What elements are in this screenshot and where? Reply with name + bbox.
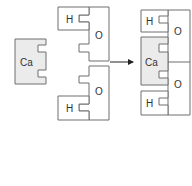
hydrogen-label: H (66, 103, 73, 114)
oxygen-label: O (95, 30, 103, 41)
calcium-label: Ca (145, 57, 158, 68)
calcium-piece-left: Ca (15, 39, 46, 84)
diagram-canvas: Ca H O O H H O Ca O H (0, 0, 192, 186)
oxygen-label: O (174, 26, 182, 37)
oxygen-label: O (174, 79, 182, 90)
hydrogen-label: H (66, 14, 73, 25)
oxygen-label: O (95, 86, 103, 97)
hydrogen-label: H (146, 98, 153, 109)
water-pair-bottom: O H (58, 66, 109, 120)
hydrogen-label: H (146, 16, 153, 27)
water-pair-top: H O (58, 7, 109, 61)
calcium-label: Ca (20, 57, 33, 68)
combined-structure: H O Ca O H (141, 10, 190, 115)
